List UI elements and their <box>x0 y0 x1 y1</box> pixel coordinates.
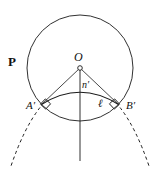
label-plane-p: P <box>8 55 16 68</box>
figure-canvas <box>0 0 159 169</box>
geometry-figure: P O n′ ℓ A′ B′ <box>0 0 159 169</box>
dashed-arc-left <box>11 108 40 167</box>
label-center-o: O <box>74 51 83 63</box>
radius-line-to-a <box>42 68 81 105</box>
label-normal-n-prime: n′ <box>82 80 89 90</box>
label-point-a-prime: A′ <box>26 100 35 111</box>
dashed-arc-right <box>120 108 149 167</box>
label-arc-length-ell: ℓ <box>98 98 103 109</box>
center-point-marker <box>78 66 83 71</box>
label-point-b-prime: B′ <box>126 100 135 111</box>
